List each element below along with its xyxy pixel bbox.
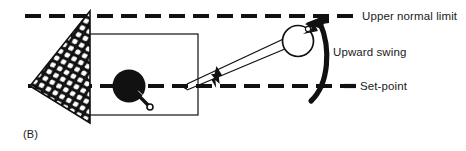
label-upward-swing: Upward swing <box>333 46 406 58</box>
figure-panel-b: Upper normal limit Upward swing Set-poin… <box>0 0 466 151</box>
set-point-ball <box>113 70 154 111</box>
label-upper-normal-limit: Upper normal limit <box>362 10 457 22</box>
label-set-point: Set-point <box>360 80 407 92</box>
diagram-canvas <box>0 0 466 151</box>
panel-label: (B) <box>23 128 38 140</box>
mesh-wedge <box>25 5 100 130</box>
